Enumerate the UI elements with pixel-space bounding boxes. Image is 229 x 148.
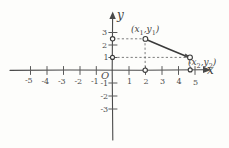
- x-tick-label-1: 1: [127, 77, 132, 86]
- y-tick-label-3: 3: [102, 28, 107, 37]
- x-tick-label-5: 5: [193, 78, 198, 87]
- y-axis-label: y: [117, 8, 124, 22]
- point-label-1-close: ): [156, 24, 160, 34]
- point-label-1-comma: ,y: [144, 24, 152, 34]
- x-tick-label-2: 2: [144, 77, 149, 86]
- y-intercept-marker-2: [111, 55, 115, 59]
- y-axis: [109, 12, 115, 141]
- point-label-2: (x2,y2): [188, 57, 216, 70]
- x-tick-label-4: 4: [177, 77, 182, 86]
- point-label-1-open: (x: [131, 24, 140, 34]
- point-connecting-segment: [146, 39, 192, 58]
- point-label-2-comma: ,y: [201, 57, 209, 67]
- point-label-1: (x1,y1): [131, 24, 159, 37]
- point-label-2-close: ): [213, 57, 217, 67]
- x-axis: [10, 67, 211, 74]
- y-tick-label-neg3: -3: [101, 105, 108, 114]
- point-marker-1: [143, 37, 148, 42]
- point-label-2-open: (x: [188, 57, 197, 67]
- x-tick-label-neg4: -4: [42, 77, 49, 86]
- x-tick-label-neg3: -3: [58, 77, 65, 86]
- y-tick-label-2: 2: [102, 41, 107, 50]
- x-tick-label-neg2: -2: [75, 77, 82, 86]
- y-tick-label-neg2: -2: [101, 92, 108, 101]
- y-tick-label-1: 1: [104, 53, 109, 62]
- origin-label: O: [101, 70, 109, 81]
- x-intercept-marker-1: [143, 68, 147, 72]
- coordinate-plane-figure: -5 -4 -3 -2 -1 1 2 3 4 5 3 2 1 -1 -2 -3 …: [0, 0, 229, 148]
- x-tick-label-3: 3: [160, 77, 165, 86]
- x-tick-label-neg1: -1: [91, 77, 98, 86]
- y-axis-arrowhead: [109, 12, 115, 20]
- coordinate-plane-svg: [0, 0, 229, 148]
- guide-lines: [113, 39, 190, 70]
- segment-path: [146, 39, 189, 57]
- x-tick-label-neg5: -5: [25, 76, 32, 85]
- y-intercept-marker-1: [110, 37, 114, 41]
